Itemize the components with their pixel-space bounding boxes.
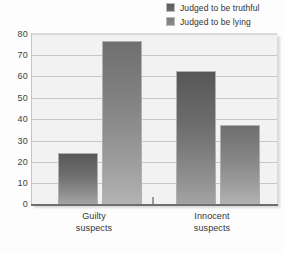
y-tick-label-80: 80	[2, 30, 28, 39]
x-axis-line	[31, 204, 278, 206]
y-tick-label-60: 60	[2, 72, 28, 81]
legend-item-truthful: Judged to be truthful	[166, 1, 284, 14]
bar-guilty-lying	[102, 41, 142, 204]
x-axis-label-innocent: Innocent suspects	[176, 211, 248, 234]
y-axis: 80 70 60 50 40 30 20 10 0	[0, 0, 28, 254]
legend-swatch-truthful-icon	[166, 3, 175, 12]
y-tick-label-0: 0	[2, 200, 28, 209]
x-axis-label-innocent-line1: Innocent	[176, 211, 248, 223]
y-tick-label-40: 40	[2, 115, 28, 124]
bar-chart-figure: Judged to be truthful Judged to be lying…	[0, 0, 285, 254]
x-axis-label-innocent-line2: suspects	[176, 223, 248, 235]
x-axis-label-guilty-line1: Guilty	[58, 211, 130, 223]
x-axis-label-guilty-line2: suspects	[58, 223, 130, 235]
y-tick-label-50: 50	[2, 94, 28, 103]
legend-label-truthful: Judged to be truthful	[180, 3, 260, 13]
bar-guilty-truthful	[58, 153, 98, 204]
y-tick-label-10: 10	[2, 179, 28, 188]
y-tick-label-70: 70	[2, 51, 28, 60]
bars-layer	[31, 33, 277, 204]
bar-innocent-truthful	[176, 71, 216, 204]
x-axis-center-tick	[152, 197, 154, 204]
legend-label-lying: Judged to be lying	[180, 17, 251, 27]
legend-item-lying: Judged to be lying	[166, 15, 284, 28]
x-axis-label-guilty: Guilty suspects	[58, 211, 130, 234]
y-tick-label-30: 30	[2, 137, 28, 146]
bar-innocent-lying	[220, 125, 260, 204]
y-tick-label-20: 20	[2, 158, 28, 167]
chart-legend: Judged to be truthful Judged to be lying	[166, 1, 284, 29]
legend-swatch-lying-icon	[166, 17, 175, 26]
